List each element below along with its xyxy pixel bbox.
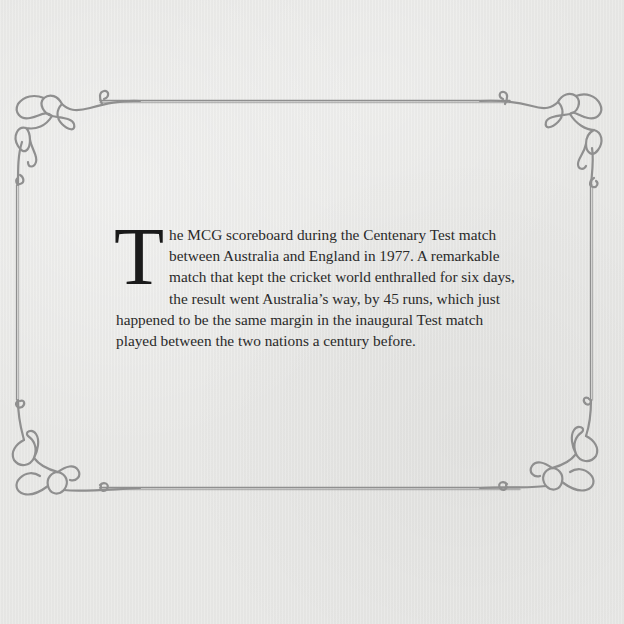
bottom-left-knot-ornament: [13, 400, 140, 495]
top-left-knot-ornament: [16, 91, 140, 185]
page: The MCG scoreboard during the Centenary …: [0, 0, 624, 624]
bottom-right-knot-ornament: [480, 398, 597, 491]
photo-caption: The MCG scoreboard during the Centenary …: [116, 224, 516, 351]
top-right-knot-ornament: [480, 92, 601, 187]
drop-cap: T: [114, 227, 164, 289]
caption-text: he MCG scoreboard during the Centenary T…: [116, 226, 515, 349]
